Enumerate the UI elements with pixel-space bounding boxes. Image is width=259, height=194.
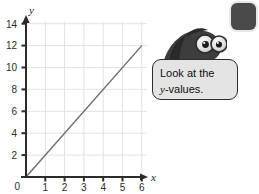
x-axis-label: x — [150, 171, 156, 183]
speech-bubble-line-2-rest: -values. — [165, 83, 204, 95]
x-tick-label: 4 — [100, 182, 106, 193]
y-tick-label: 4 — [11, 128, 17, 139]
rounded-square-icon — [231, 3, 256, 30]
x-axis — [21, 173, 148, 181]
origin-label: 0 — [14, 181, 20, 192]
x-tick-label: 1 — [43, 182, 49, 193]
coordinate-plane: 14 12 10 8 6 4 2 0 1 2 3 4 5 6 y x — [0, 0, 160, 194]
y-tick-label: 8 — [11, 84, 17, 95]
y-axis — [22, 15, 30, 177]
y-tick-label: 2 — [11, 150, 17, 161]
x-tick-label: 3 — [81, 182, 87, 193]
y-tick-label: 12 — [6, 40, 18, 51]
x-tick-label: 6 — [139, 182, 145, 193]
y-tick-label: 14 — [6, 19, 18, 30]
graph-figure: 14 12 10 8 6 4 2 0 1 2 3 4 5 6 y x — [0, 0, 259, 194]
x-tick-label: 5 — [120, 182, 126, 193]
speech-bubble-line-1: Look at the — [160, 65, 230, 81]
grid-horizontal — [26, 24, 147, 155]
x-tick-label: 2 — [62, 182, 68, 193]
y-tick-label: 6 — [11, 106, 17, 117]
speech-bubble-line-2: y-values. — [160, 81, 230, 97]
y-tick-label: 10 — [6, 62, 18, 73]
y-axis-label: y — [28, 4, 34, 16]
speech-bubble: Look at the y-values. — [152, 59, 238, 100]
